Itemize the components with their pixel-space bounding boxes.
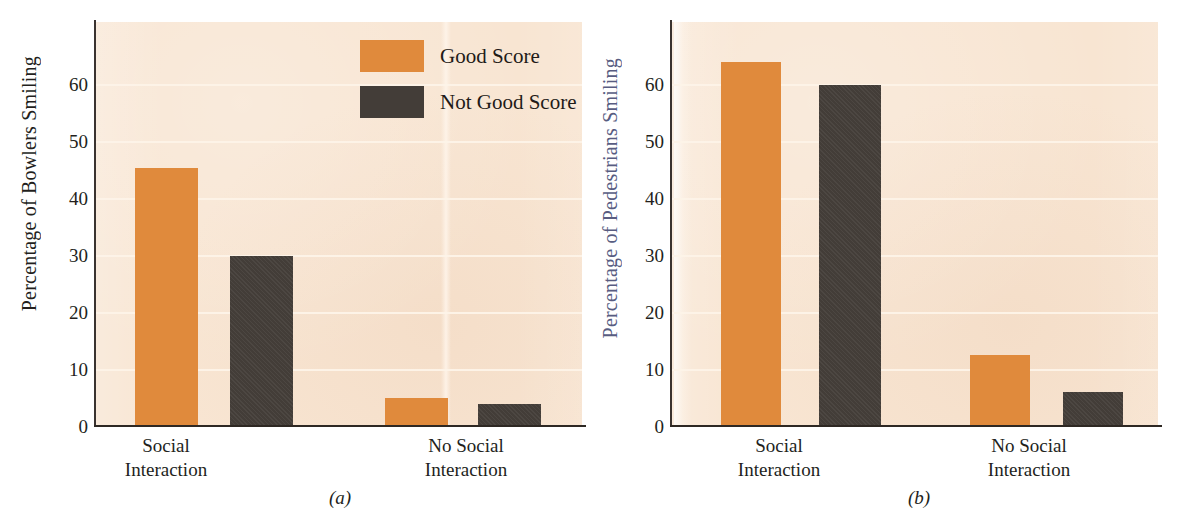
legend-a: Good Score Not Good Score <box>360 40 576 132</box>
figure-two-panel-bar-charts: 60 50 40 30 20 10 0 Percentage of Bowler… <box>0 0 1198 518</box>
bar-a-nosocial-not-good-score <box>478 404 541 425</box>
bar-b-social-bad-weather <box>819 85 881 425</box>
x-axis-line-b <box>670 425 1162 427</box>
legend-swatch-icon-not-good-score <box>360 86 424 118</box>
gridline-50 <box>96 141 582 143</box>
legend-swatch-icon-good-score <box>360 40 424 72</box>
bar-b-nosocial-good-weather <box>970 355 1030 426</box>
y-axis-title-b: Percentage of Pedestrians Smiling <box>599 58 622 338</box>
y-tick-label-10: 10 <box>48 360 88 379</box>
x-category-line-1: No Social <box>929 434 1129 458</box>
x-category-line-2: Interaction <box>66 458 266 482</box>
y-tick-label-20: 20 <box>48 303 88 322</box>
x-category-line-1: Social <box>66 434 266 458</box>
x-category-line-1: Social <box>679 434 879 458</box>
y-axis-line-a <box>94 20 96 427</box>
x-category-label-social: Social Interaction <box>66 434 266 482</box>
y-tick-label-60: 60 <box>48 75 88 94</box>
chart-panel-a: 60 50 40 30 20 10 0 Percentage of Bowler… <box>0 0 599 518</box>
y-tick-label-60: 60 <box>624 75 664 94</box>
y-tick-label-50: 50 <box>624 132 664 151</box>
y-tick-label-40: 40 <box>48 189 88 208</box>
y-tick-label-50: 50 <box>48 132 88 151</box>
y-tick-label-0: 0 <box>624 417 664 436</box>
x-category-line-2: Interaction <box>366 458 566 482</box>
panel-caption-b: (b) <box>889 487 949 509</box>
y-tick-label-30: 30 <box>624 246 664 265</box>
y-tick-label-40: 40 <box>624 189 664 208</box>
bar-a-nosocial-good-score <box>385 398 448 425</box>
chart-panel-b: 60 50 40 30 20 10 0 Percentage of Pedest… <box>599 0 1198 518</box>
plot-area-b <box>672 22 1158 425</box>
y-axis-line-b <box>670 20 672 427</box>
y-tick-label-10: 10 <box>624 360 664 379</box>
y-axis-title-a: Percentage of Bowlers Smiling <box>18 56 41 311</box>
x-category-label-no-social: No Social Interaction <box>929 434 1129 482</box>
x-category-line-1: No Social <box>366 434 566 458</box>
bar-b-nosocial-bad-weather <box>1063 392 1123 425</box>
x-category-line-2: Interaction <box>929 458 1129 482</box>
panel-caption-a: (a) <box>310 487 370 509</box>
legend-item-not-good-score: Not Good Score <box>360 86 576 118</box>
bar-a-social-good-score <box>135 168 198 425</box>
legend-label-good-score: Good Score <box>440 44 540 69</box>
legend-label-not-good-score: Not Good Score <box>440 90 576 115</box>
legend-item-good-score: Good Score <box>360 40 576 72</box>
y-tick-label-30: 30 <box>48 246 88 265</box>
x-category-line-2: Interaction <box>679 458 879 482</box>
x-axis-line-a <box>94 425 586 427</box>
bar-a-social-not-good-score <box>230 256 293 426</box>
y-tick-label-20: 20 <box>624 303 664 322</box>
scan-artifact-b <box>674 22 692 425</box>
bar-b-social-good-weather <box>721 62 781 425</box>
x-category-label-social: Social Interaction <box>679 434 879 482</box>
x-category-label-no-social: No Social Interaction <box>366 434 566 482</box>
